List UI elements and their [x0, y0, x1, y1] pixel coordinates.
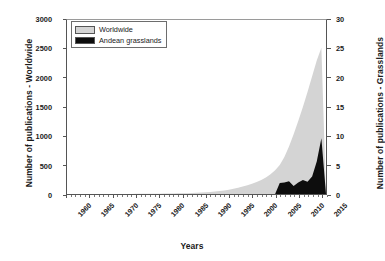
x-tick-minor: [127, 195, 128, 197]
x-tick-minor: [220, 195, 221, 197]
x-tick-minor: [327, 195, 328, 197]
x-tick-minor: [257, 195, 258, 197]
x-tick-minor: [164, 195, 165, 197]
y-tick-label-left: 2000: [12, 74, 52, 83]
y-tick-right: [327, 165, 331, 166]
y-tick-right: [327, 107, 331, 108]
x-tick-minor: [210, 195, 211, 197]
x-tick-minor: [150, 195, 151, 197]
x-tick-major: [322, 195, 323, 198]
x-tick-minor: [280, 195, 281, 197]
x-tick-minor: [131, 195, 132, 197]
x-tick-label: 1995: [239, 201, 257, 219]
chart-legend: Worldwide Andean grasslands: [71, 21, 167, 48]
x-tick-minor: [173, 195, 174, 197]
x-tick-minor: [215, 195, 216, 197]
x-tick-label: 1965: [99, 201, 117, 219]
x-tick-major: [206, 195, 207, 198]
y-tick-label-right: 20: [336, 74, 366, 83]
y-tick-label-right: 30: [336, 15, 366, 24]
y-tick-label-right: 5: [336, 162, 366, 171]
x-tick-minor: [238, 195, 239, 197]
x-tick-label: 1960: [76, 201, 94, 219]
x-tick-minor: [94, 195, 95, 197]
x-tick-minor: [122, 195, 123, 197]
x-tick-major: [252, 195, 253, 198]
x-tick-minor: [155, 195, 156, 197]
x-tick-label: 2000: [262, 201, 280, 219]
y-tick-right: [327, 77, 331, 78]
x-tick-major: [136, 195, 137, 198]
x-tick-minor: [294, 195, 295, 197]
legend-label-worldwide: Worldwide: [99, 26, 133, 33]
x-tick-minor: [201, 195, 202, 197]
legend-swatch-worldwide: [75, 26, 95, 34]
legend-swatch-andean-grasslands: [75, 37, 95, 45]
x-tick-label: 2005: [285, 201, 303, 219]
y-tick-label-left: 3000: [12, 15, 52, 24]
y-tick-label-right: 0: [336, 191, 366, 200]
x-tick-label: 1975: [146, 201, 164, 219]
x-tick-minor: [141, 195, 142, 197]
y-tick-left: [63, 19, 67, 20]
x-axis-title: Years: [0, 241, 384, 251]
x-tick-minor: [169, 195, 170, 197]
y-tick-label-left: 2500: [12, 44, 52, 53]
x-tick-minor: [85, 195, 86, 197]
legend-item-andean-grasslands: Andean grasslands: [75, 35, 163, 46]
x-tick-minor: [313, 195, 314, 197]
y-tick-left: [63, 48, 67, 49]
y-tick-label-left: 1500: [12, 103, 52, 112]
x-tick-minor: [75, 195, 76, 197]
y-tick-label-right: 15: [336, 103, 366, 112]
x-tick-minor: [234, 195, 235, 197]
x-tick-minor: [308, 195, 309, 197]
x-tick-minor: [243, 195, 244, 197]
x-tick-minor: [178, 195, 179, 197]
x-tick-minor: [285, 195, 286, 197]
x-tick-minor: [266, 195, 267, 197]
y-axis-right-title: Number of publications - Grasslands: [375, 28, 385, 198]
x-tick-minor: [248, 195, 249, 197]
x-tick-minor: [318, 195, 319, 197]
y-tick-left: [63, 165, 67, 166]
x-tick-label: 2010: [309, 201, 327, 219]
x-tick-major: [89, 195, 90, 198]
x-tick-label: 1985: [192, 201, 210, 219]
x-tick-minor: [304, 195, 305, 197]
x-tick-minor: [192, 195, 193, 197]
x-tick-minor: [108, 195, 109, 197]
legend-label-andean-grasslands: Andean grasslands: [99, 37, 161, 44]
x-tick-label: 1990: [215, 201, 233, 219]
y-tick-right: [327, 19, 331, 20]
x-tick-minor: [103, 195, 104, 197]
x-tick-label: 1970: [122, 201, 140, 219]
x-tick-major: [159, 195, 160, 198]
x-tick-label: 2015: [332, 201, 350, 219]
x-tick-minor: [224, 195, 225, 197]
y-tick-left: [63, 107, 67, 108]
y-tick-label-left: 0: [12, 191, 52, 200]
x-tick-minor: [290, 195, 291, 197]
x-tick-major: [183, 195, 184, 198]
x-tick-major: [229, 195, 230, 198]
x-tick-minor: [187, 195, 188, 197]
y-tick-label-left: 1000: [12, 132, 52, 141]
x-tick-minor: [117, 195, 118, 197]
y-tick-left: [63, 136, 67, 137]
x-tick-minor: [99, 195, 100, 197]
area-series-worldwide: [67, 48, 326, 194]
x-tick-minor: [145, 195, 146, 197]
x-tick-minor: [271, 195, 272, 197]
y-tick-right: [327, 136, 331, 137]
legend-item-worldwide: Worldwide: [75, 25, 163, 36]
x-tick-major: [276, 195, 277, 198]
x-tick-major: [113, 195, 114, 198]
x-tick-minor: [71, 195, 72, 197]
x-tick-minor: [262, 195, 263, 197]
x-tick-major: [299, 195, 300, 198]
y-tick-right: [327, 48, 331, 49]
x-tick-major: [66, 195, 67, 198]
y-axis-left-title: Number of publications - Worldwide: [24, 28, 34, 198]
